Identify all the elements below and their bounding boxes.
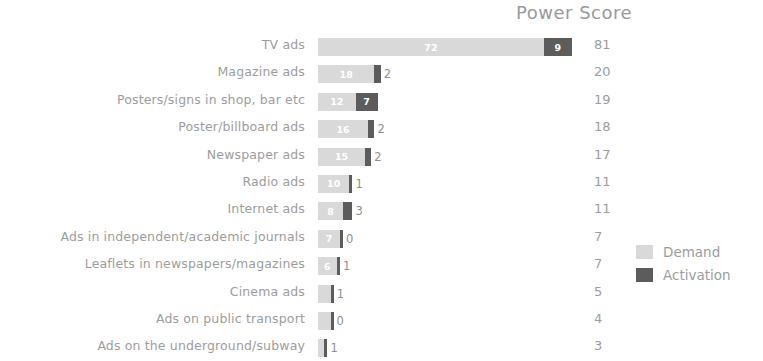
category-label: Cinema ads <box>230 284 305 299</box>
stacked-bar: 1 <box>318 285 334 303</box>
stacked-bar: 61 <box>318 257 340 275</box>
chart-row: Poster/billboard ads16218 <box>0 118 763 145</box>
segment-value-demand: 6 <box>324 261 331 272</box>
bar-segment-activation: 7 <box>356 93 378 111</box>
stacked-bar: 1 <box>318 339 327 357</box>
power-score-value: 4 <box>594 311 602 326</box>
power-score-value: 19 <box>594 92 611 107</box>
power-score-value: 5 <box>594 284 602 299</box>
bar-segment-activation: 0 <box>331 312 334 330</box>
segment-value-activation: 2 <box>384 67 391 81</box>
segment-value-activation: 3 <box>355 204 362 218</box>
chart-row: TV ads72981 <box>0 36 763 63</box>
power-score-value: 17 <box>594 147 611 162</box>
segment-value-activation: 2 <box>374 150 381 164</box>
bar-segment-activation: 0 <box>340 230 343 248</box>
bar-segment-demand: 18 <box>318 65 374 83</box>
segment-value-demand: 8 <box>327 206 334 217</box>
category-label: Radio ads <box>242 174 305 189</box>
segment-value-activation: 0 <box>346 232 353 246</box>
category-label: Ads on public transport <box>156 311 305 326</box>
bar-segment-activation: 1 <box>331 285 334 303</box>
power-score-value: 81 <box>594 37 611 52</box>
segment-value-activation: 1 <box>343 259 350 273</box>
power-score-value: 7 <box>594 256 602 271</box>
segment-value-demand: 10 <box>327 178 340 189</box>
chart-row: Radio ads10111 <box>0 173 763 200</box>
chart-rows: TV ads72981Magazine ads18220Posters/sign… <box>0 36 763 361</box>
chart-title: Power Score <box>516 2 716 23</box>
stacked-bar: 0 <box>318 312 334 330</box>
category-label: Magazine ads <box>217 64 305 79</box>
bar-segment-demand: 7 <box>318 230 340 248</box>
legend-swatch-icon <box>636 245 653 259</box>
legend-item[interactable]: Activation <box>636 263 731 286</box>
stacked-bar: 729 <box>318 38 572 56</box>
bar-segment-activation: 2 <box>365 148 371 166</box>
bar-segment-demand: 16 <box>318 120 368 138</box>
chart-row: Posters/signs in shop, bar etc12719 <box>0 91 763 118</box>
bar-segment-activation: 9 <box>544 38 572 56</box>
chart-row: Internet ads8311 <box>0 200 763 227</box>
power-score-value: 18 <box>594 119 611 134</box>
chart-row: Cinema ads15 <box>0 283 763 310</box>
category-label: Internet ads <box>227 201 305 216</box>
power-score-value: 20 <box>594 64 611 79</box>
stacked-bar: 152 <box>318 148 371 166</box>
category-label: Ads on the underground/subway <box>97 338 305 353</box>
bar-segment-activation: 1 <box>337 257 340 275</box>
bar-segment-demand: 8 <box>318 202 343 220</box>
bar-segment-demand: 15 <box>318 148 365 166</box>
category-label: Ads in independent/academic journals <box>60 229 305 244</box>
bar-segment-activation: 3 <box>343 202 352 220</box>
segment-value-demand: 16 <box>336 124 349 135</box>
segment-value-demand: 15 <box>335 151 348 162</box>
segment-value-activation: 2 <box>377 122 384 136</box>
chart-row: Newspaper ads15217 <box>0 146 763 173</box>
segment-value-demand: 7 <box>326 233 333 244</box>
stacked-bar: 83 <box>318 202 352 220</box>
segment-value-activation: 1 <box>330 341 337 355</box>
segment-value-demand: 18 <box>340 69 353 80</box>
bar-segment-demand <box>318 312 331 330</box>
stacked-bar: 70 <box>318 230 343 248</box>
bar-segment-activation: 1 <box>349 175 352 193</box>
chart-legend: DemandActivation <box>636 240 731 286</box>
legend-swatch-icon <box>636 268 653 282</box>
bar-segment-demand: 6 <box>318 257 337 275</box>
bar-segment-activation: 1 <box>324 339 327 357</box>
category-label: Leaflets in newspapers/magazines <box>85 256 305 271</box>
category-label: Posters/signs in shop, bar etc <box>117 92 305 107</box>
power-score-value: 11 <box>594 201 611 216</box>
segment-value-activation: 0 <box>337 314 344 328</box>
legend-item[interactable]: Demand <box>636 240 731 263</box>
category-label: Newspaper ads <box>207 147 305 162</box>
legend-label: Activation <box>663 267 731 283</box>
segment-value-activation: 1 <box>337 287 344 301</box>
power-score-value: 7 <box>594 229 602 244</box>
bar-segment-demand: 10 <box>318 175 349 193</box>
power-score-value: 11 <box>594 174 611 189</box>
segment-value-demand: 72 <box>424 42 437 53</box>
bar-segment-activation: 2 <box>374 65 380 83</box>
stacked-bar: 101 <box>318 175 352 193</box>
chart-row: Magazine ads18220 <box>0 63 763 90</box>
stacked-bar: 127 <box>318 93 378 111</box>
segment-value-activation: 7 <box>363 96 370 107</box>
stacked-bar: 182 <box>318 65 381 83</box>
power-score-value: 3 <box>594 338 602 353</box>
legend-label: Demand <box>663 244 720 260</box>
bar-segment-activation: 2 <box>368 120 374 138</box>
category-label: Poster/billboard ads <box>178 119 305 134</box>
bar-segment-demand: 72 <box>318 38 544 56</box>
chart-row: Ads on the underground/subway13 <box>0 337 763 361</box>
segment-value-activation: 9 <box>555 42 562 53</box>
bar-segment-demand: 12 <box>318 93 356 111</box>
segment-value-activation: 1 <box>355 177 362 191</box>
stacked-bar: 162 <box>318 120 374 138</box>
chart-row: Ads on public transport04 <box>0 310 763 337</box>
category-label: TV ads <box>262 37 305 52</box>
bar-segment-demand <box>318 285 331 303</box>
segment-value-demand: 12 <box>330 96 343 107</box>
